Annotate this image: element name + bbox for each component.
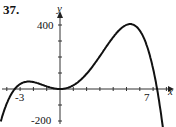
curve bbox=[1, 24, 163, 127]
function-graph: -3 7 400 -200 x y bbox=[0, 0, 176, 127]
y-axis-label: y bbox=[56, 2, 62, 14]
x-axis-label: x bbox=[167, 85, 173, 97]
y-tick-label-400: 400 bbox=[37, 19, 54, 31]
x-tick-label-7: 7 bbox=[144, 91, 150, 103]
x-tick-label-neg3: -3 bbox=[15, 91, 25, 103]
y-tick-label-neg200: -200 bbox=[31, 114, 52, 126]
axes bbox=[2, 18, 168, 124]
